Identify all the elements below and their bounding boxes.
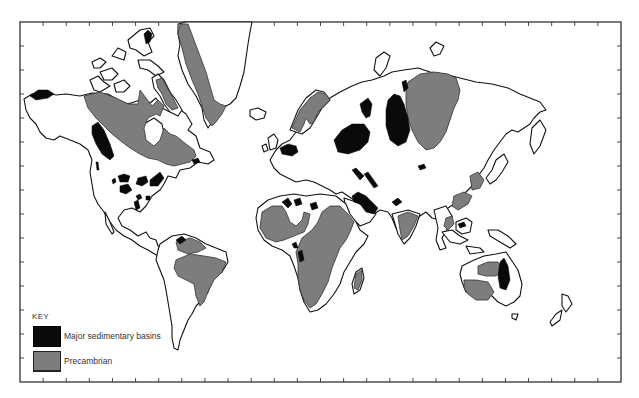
legend-title: KEY xyxy=(32,312,49,321)
legend-item-sedimentary-basins: Major sedimentary basins xyxy=(33,325,161,347)
legend-item-precambrian: Precambrian xyxy=(33,350,112,372)
legend-label: Precambrian xyxy=(64,356,112,366)
legend-label: Major sedimentary basins xyxy=(64,331,161,341)
legend-swatch-black xyxy=(33,326,61,347)
legend-swatch-gray xyxy=(33,351,61,372)
